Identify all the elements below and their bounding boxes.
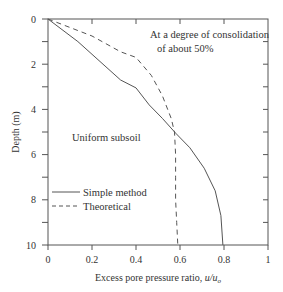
y-tick-label: 2: [31, 59, 36, 70]
y-tick-label: 4: [31, 104, 36, 115]
annotation-consolidation-line2: of about 50%: [157, 43, 214, 54]
depth-vs-pore-pressure-chart: 00.20.40.60.810246810 At a degree of con…: [0, 0, 283, 292]
legend-label-simple-method: Simple method: [83, 187, 148, 198]
y-tick-label: 10: [26, 240, 36, 251]
legend-label-theoretical: Theoretical: [83, 201, 131, 212]
x-axis-title-math: u/u: [205, 272, 218, 283]
annotation-consolidation-line1: At a degree of consolidation: [150, 29, 270, 40]
legend: Simple method Theoretical: [52, 187, 148, 212]
y-tick-label: 6: [31, 149, 36, 160]
y-tick-label: 8: [31, 194, 36, 205]
ticks: 00.20.40.60.810246810: [26, 14, 271, 266]
y-axis-title: Depth (m): [10, 111, 22, 152]
x-axis-title-subscript: o: [217, 277, 221, 285]
x-tick-label: 0.4: [130, 254, 143, 265]
x-tick-label: 1: [266, 254, 271, 265]
y-tick-label: 0: [31, 14, 36, 25]
x-tick-label: 0.6: [174, 254, 187, 265]
x-tick-label: 0: [46, 254, 51, 265]
x-tick-label: 0.8: [218, 254, 231, 265]
x-axis-title: Excess pore pressure ratio, u/uo: [95, 272, 221, 285]
x-tick-label: 0.2: [86, 254, 99, 265]
x-axis-title-text: Excess pore pressure ratio,: [95, 272, 205, 283]
annotation-uniform-subsoil: Uniform subsoil: [72, 132, 141, 143]
